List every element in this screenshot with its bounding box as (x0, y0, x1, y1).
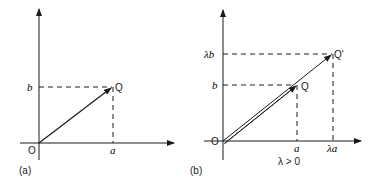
y-tick-label-lambda-b: λb (203, 48, 215, 60)
y-tick-label-b: b (212, 79, 218, 91)
panel-a: O Q b a (a) (19, 9, 174, 176)
origin-label: O (28, 145, 36, 156)
panel-caption-b: (b) (190, 165, 202, 176)
x-tick-label-a: a (110, 144, 116, 156)
vector-oq (39, 88, 111, 143)
x-tick-label-a: a (294, 142, 300, 154)
panel-caption-a: (a) (19, 165, 31, 176)
point-q-prime-label: Q' (334, 49, 344, 60)
vector-scaling-diagram: O Q b a (a) O Q Q' λb b a λa λ > 0 (b) (0, 0, 375, 186)
panel-b: O Q Q' λb b a λa λ > 0 (b) (190, 10, 361, 176)
point-q-label: Q (301, 81, 309, 92)
point-q-label: Q (115, 82, 123, 93)
y-tick-label-b: b (27, 81, 33, 93)
condition-label: λ > 0 (278, 156, 300, 167)
vector-oq-prime (223, 55, 331, 141)
vector-oq-outline (224, 86, 296, 144)
origin-label: O (211, 136, 219, 147)
x-tick-label-lambda-a: λa (326, 142, 338, 154)
